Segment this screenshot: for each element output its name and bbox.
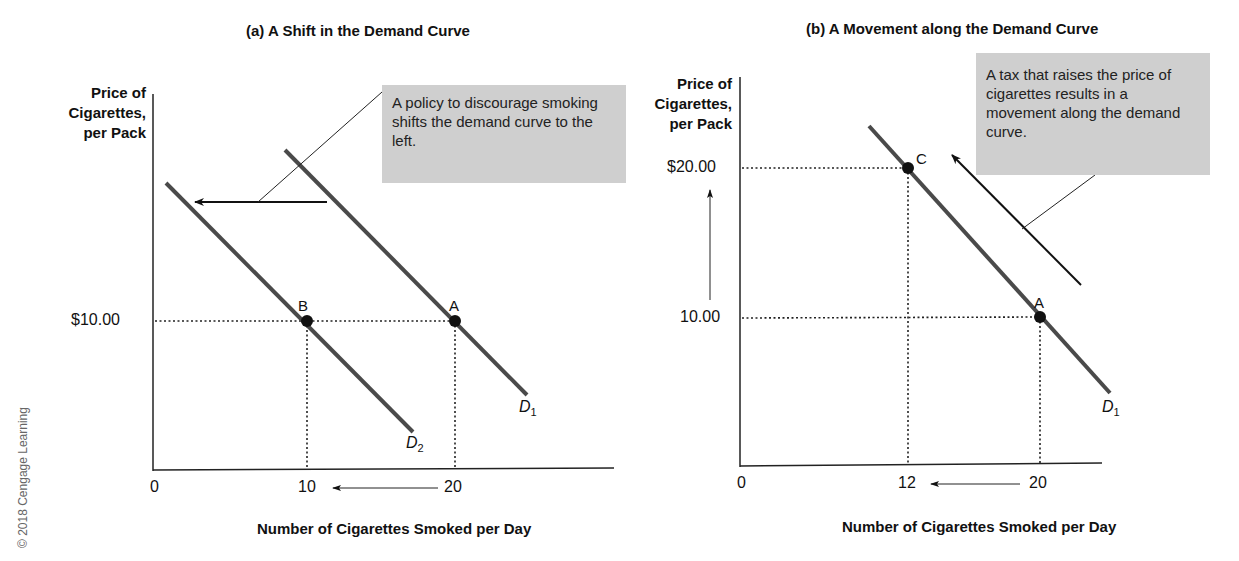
point-c-label: C: [916, 150, 927, 167]
panel-a-x-tick-10: 10: [298, 478, 316, 496]
point-a-label-b: A: [1034, 294, 1044, 311]
point-a-panel-a: [449, 315, 461, 327]
d2-label: D2: [406, 434, 424, 454]
point-c: [902, 162, 914, 174]
point-b-label: B: [298, 297, 308, 314]
panel-a-x-axis-label: Number of Cigarettes Smoked per Day: [257, 520, 531, 537]
panel-b-callout: A tax that raises the price of cigarette…: [976, 53, 1210, 175]
y-label-line: Price of: [40, 83, 146, 103]
panel-b-x-tick-20: 20: [1029, 474, 1047, 492]
panel-b-guides: [742, 168, 1040, 464]
panel-b-y-tick-10: 10.00: [680, 308, 720, 326]
curve-name: D: [519, 398, 531, 415]
panel-b-y-axis-label: Price of Cigarettes, per Pack: [620, 74, 732, 134]
panel-a-y-axis-label: Price of Cigarettes, per Pack: [40, 83, 146, 143]
y-label-line: Cigarettes,: [620, 94, 732, 114]
curve-sub: 1: [531, 406, 537, 418]
point-a-label-a: A: [449, 297, 459, 314]
d1-label-a: D1: [519, 398, 537, 418]
y-label-line: Cigarettes,: [40, 103, 146, 123]
panel-b-y-tick-20: $20.00: [667, 158, 716, 176]
panel-a-x-tick-0: 0: [150, 478, 159, 496]
panel-b-title: (b) A Movement along the Demand Curve: [806, 20, 1098, 37]
panel-a-y-tick: $10.00: [71, 311, 120, 329]
d2-curve: [166, 183, 413, 432]
curve-name: D: [406, 434, 418, 451]
panel-a-title: (a) A Shift in the Demand Curve: [246, 22, 470, 39]
point-b: [301, 315, 313, 327]
panel-b-x-tick-0: 0: [737, 474, 746, 492]
d1-curve-a: [285, 150, 527, 395]
curve-sub: 2: [418, 442, 424, 454]
panel-b-x-axis-label: Number of Cigarettes Smoked per Day: [842, 518, 1116, 535]
y-label-line: per Pack: [620, 114, 732, 134]
panel-a-x-tick-20: 20: [444, 478, 462, 496]
y-label-line: Price of: [620, 74, 732, 94]
curve-sub: 1: [1114, 406, 1120, 418]
y-label-line: per Pack: [40, 123, 146, 143]
curve-name: D: [1102, 398, 1114, 415]
copyright-text: © 2018 Cengage Learning: [16, 407, 30, 548]
panel-b-x-tick-12: 12: [898, 474, 916, 492]
d1-label-b: D1: [1102, 398, 1120, 418]
panel-a-callout: A policy to discourage smoking shifts th…: [382, 85, 626, 183]
callout-b-leader: [1022, 175, 1095, 229]
point-a-panel-b: [1034, 311, 1046, 323]
